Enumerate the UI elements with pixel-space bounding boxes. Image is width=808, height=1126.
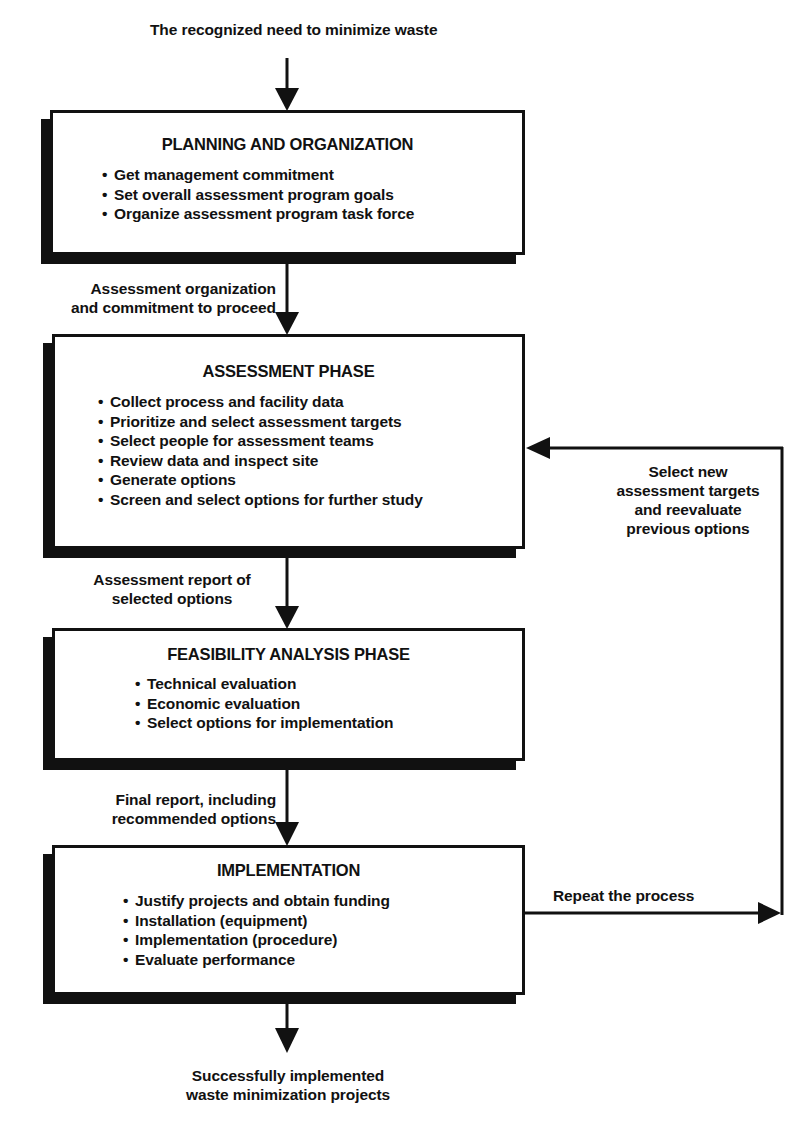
phase-box-assessment: ASSESSMENT PHASE Collect process and fac… — [52, 334, 525, 549]
phase-title-text: PLANNING AND ORGANIZATION — [162, 135, 414, 153]
list-item: Review data and inspect site — [98, 451, 423, 471]
repeat-label: Repeat the process — [553, 886, 694, 905]
label-line: waste minimization projects — [150, 1085, 426, 1104]
list-item: Select people for assessment teams — [98, 431, 423, 451]
feedback-label: Select new assessment targets and reeval… — [598, 462, 778, 538]
phase-items: Justify projects and obtain funding Inst… — [123, 891, 390, 969]
label-line: assessment targets — [598, 481, 778, 500]
phase-items: Collect process and facility data Priori… — [98, 392, 423, 509]
list-item: Get management commitment — [102, 165, 414, 185]
label-line: and reevaluate — [598, 500, 778, 519]
phase-items: Get management commitment Set overall as… — [102, 165, 414, 224]
phase-title: ASSESSMENT PHASE — [55, 362, 522, 381]
label-line: Final report, including — [40, 790, 276, 809]
list-item: Justify projects and obtain funding — [123, 891, 390, 911]
list-item: Generate options — [98, 470, 423, 490]
phase-box-feasibility: FEASIBILITY ANALYSIS PHASE Technical eva… — [52, 628, 525, 761]
phase-items: Technical evaluation Economic evaluation… — [135, 674, 393, 733]
phase-box-planning: PLANNING AND ORGANIZATION Get management… — [50, 110, 525, 255]
list-item: Economic evaluation — [135, 694, 393, 714]
label-line: Successfully implemented — [150, 1066, 426, 1085]
phase-title: PLANNING AND ORGANIZATION — [53, 135, 522, 154]
list-item: Organize assessment program task force — [102, 204, 414, 224]
label-line: Assessment organization — [20, 279, 276, 298]
label-line: Assessment report of — [80, 570, 264, 589]
label-line: Select new — [598, 462, 778, 481]
label-line: and commitment to proceed — [20, 298, 276, 317]
end-label: Successfully implemented waste minimizat… — [150, 1066, 426, 1104]
phase-box-implementation: IMPLEMENTATION Justify projects and obta… — [52, 845, 525, 995]
phase-title: FEASIBILITY ANALYSIS PHASE — [55, 645, 522, 664]
phase-title: IMPLEMENTATION — [55, 861, 522, 880]
phase-title-text: IMPLEMENTATION — [217, 861, 360, 879]
connector-label-planning-assessment: Assessment organization and commitment t… — [20, 279, 276, 317]
connector-label-feasibility-implementation: Final report, including recommended opti… — [40, 790, 276, 828]
list-item: Set overall assessment program goals — [102, 185, 414, 205]
phase-title-text: FEASIBILITY ANALYSIS PHASE — [167, 645, 410, 663]
list-item: Screen and select options for further st… — [98, 490, 423, 510]
connector-label-assessment-feasibility: Assessment report of selected options — [80, 570, 264, 608]
label-line: recommended options — [40, 809, 276, 828]
list-item: Installation (equipment) — [123, 911, 390, 931]
label-line: previous options — [598, 519, 778, 538]
list-item: Evaluate performance — [123, 950, 390, 970]
list-item: Select options for implementation — [135, 713, 393, 733]
start-label: The recognized need to minimize waste — [150, 20, 424, 39]
list-item: Technical evaluation — [135, 674, 393, 694]
list-item: Collect process and facility data — [98, 392, 423, 412]
label-line: selected options — [80, 589, 264, 608]
list-item: Implementation (procedure) — [123, 930, 390, 950]
list-item: Prioritize and select assessment targets — [98, 412, 423, 432]
phase-title-text: ASSESSMENT PHASE — [203, 362, 375, 380]
